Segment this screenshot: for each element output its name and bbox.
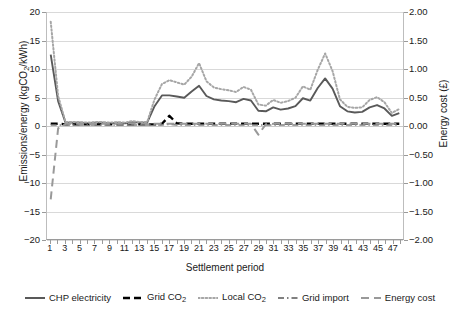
x-tick-mark (169, 240, 170, 244)
y-tick-mark-right (404, 212, 408, 213)
y-tick-mark-left (42, 183, 46, 184)
x-tick-mark (124, 240, 125, 244)
legend-label-subscript: 2 (262, 295, 266, 304)
x-tick-mark (132, 240, 133, 244)
x-tick-mark (363, 240, 364, 244)
y-tick-label-left: 0 (0, 121, 40, 131)
x-tick-mark (199, 240, 200, 244)
y-tick-mark-right (404, 183, 408, 184)
legend-swatch (25, 294, 45, 302)
y-tick-label-left: 5 (0, 93, 40, 103)
x-tick-mark (72, 240, 73, 244)
y-tick-label-left: −20 (0, 235, 40, 245)
x-tick-mark (333, 240, 334, 244)
x-tick-mark (288, 240, 289, 244)
y-tick-mark-right (404, 12, 408, 13)
x-tick-mark (341, 240, 342, 244)
y-tick-label-right: −2.00 (409, 235, 453, 245)
x-tick-mark (102, 240, 103, 244)
x-tick-mark (221, 240, 222, 244)
legend-item[interactable]: Local CO2 (198, 292, 266, 303)
x-tick-mark (303, 240, 304, 244)
x-tick-mark (296, 240, 297, 244)
legend-item[interactable]: Energy cost (361, 293, 435, 303)
y-tick-label-left: 15 (0, 36, 40, 46)
y-tick-label-right: 2.00 (409, 7, 453, 17)
x-tick-mark (214, 240, 215, 244)
x-tick-mark (139, 240, 140, 244)
x-axis-label: Settlement period (46, 262, 404, 273)
y-tick-label-left: −15 (0, 207, 40, 217)
y-axis-label-right: Energy cost (£) (438, 39, 449, 189)
y-tick-label-right: −1.50 (409, 207, 453, 217)
legend-swatch (198, 294, 218, 302)
legend-label: CHP electricity (49, 293, 111, 303)
y-tick-label-left: −5 (0, 150, 40, 160)
x-tick-mark (251, 240, 252, 244)
x-tick-mark (87, 240, 88, 244)
x-tick-mark (109, 240, 110, 244)
x-tick-mark (311, 240, 312, 244)
x-tick-mark (400, 240, 401, 244)
x-tick-mark (326, 240, 327, 244)
y-tick-mark-left (42, 126, 46, 127)
y-tick-mark-left (42, 212, 46, 213)
x-tick-mark (356, 240, 357, 244)
x-tick-mark (244, 240, 245, 244)
chart-legend: CHP electricityGrid CO2Local CO2Grid imp… (0, 292, 460, 303)
legend-label-subscript: 2 (182, 295, 186, 304)
y-tick-mark-left (42, 155, 46, 156)
x-tick-mark (147, 240, 148, 244)
legend-swatch (123, 294, 143, 302)
y-tick-mark-right (404, 69, 408, 70)
legend-label: Local CO2 (222, 292, 266, 303)
y-tick-mark-left (42, 69, 46, 70)
chart-figure: Emissions/energy (kgCO2/kWh) Energy cost… (0, 0, 460, 319)
x-tick-mark (94, 240, 95, 244)
y-tick-label-right: −1.00 (409, 178, 453, 188)
plot-area (46, 12, 404, 240)
x-tick-mark (57, 240, 58, 244)
x-tick-mark (177, 240, 178, 244)
y-tick-label-left: 10 (0, 64, 40, 74)
x-tick-mark (184, 240, 185, 244)
x-tick-mark (80, 240, 81, 244)
series-line (51, 22, 400, 123)
y-tick-mark-left (42, 240, 46, 241)
x-tick-mark (393, 240, 394, 244)
x-tick-mark (259, 240, 260, 244)
series-canvas (47, 12, 403, 239)
x-tick-mark (229, 240, 230, 244)
legend-item[interactable]: Grid CO2 (123, 292, 186, 303)
x-tick-mark (50, 240, 51, 244)
x-tick-mark (191, 240, 192, 244)
x-tick-mark (266, 240, 267, 244)
y-tick-label-right: 0.50 (409, 93, 453, 103)
y-tick-label-right: 1.50 (409, 36, 453, 46)
x-tick-mark (117, 240, 118, 244)
legend-item[interactable]: CHP electricity (25, 293, 111, 303)
y-tick-mark-left (42, 98, 46, 99)
y-tick-mark-right (404, 41, 408, 42)
legend-swatch (278, 294, 298, 302)
y-tick-mark-right (404, 240, 408, 241)
x-tick-mark (273, 240, 274, 244)
x-tick-mark (206, 240, 207, 244)
legend-item[interactable]: Grid import (278, 293, 349, 303)
series-line (51, 123, 400, 199)
x-tick-mark (162, 240, 163, 244)
y-tick-label-left: −10 (0, 178, 40, 188)
y-tick-mark-left (42, 41, 46, 42)
y-tick-mark-left (42, 12, 46, 13)
legend-label: Grid import (302, 293, 349, 303)
gridline (47, 240, 403, 241)
legend-label: Grid CO2 (147, 292, 186, 303)
y-tick-label-right: 1.00 (409, 64, 453, 74)
y-tick-mark-right (404, 126, 408, 127)
x-tick-mark (385, 240, 386, 244)
x-tick-mark (348, 240, 349, 244)
x-tick-mark (318, 240, 319, 244)
y-tick-mark-right (404, 155, 408, 156)
x-tick-mark (236, 240, 237, 244)
x-tick-label: 47 (382, 244, 404, 253)
